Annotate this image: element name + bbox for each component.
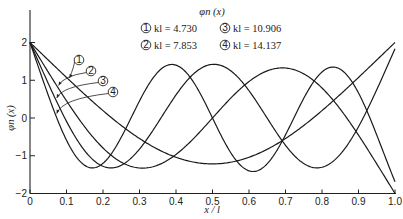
x-tick-label: 0 (27, 196, 33, 207)
svg-text:4: 4 (110, 86, 116, 97)
svg-text:2: 2 (143, 39, 149, 50)
x-tick-label: 0.9 (352, 196, 366, 207)
svg-text:kl = 14.137: kl = 14.137 (233, 40, 281, 51)
y-tick-label: −1 (16, 150, 28, 161)
x-tick-label: 0.2 (96, 196, 110, 207)
y-tick-label: 0 (21, 113, 27, 124)
svg-text:1: 1 (76, 54, 82, 65)
y-tick-label: 2 (21, 37, 27, 48)
x-axis-label: x / l (203, 204, 220, 215)
y-tick-label: 1 (21, 75, 27, 86)
legend: φn (x) 1 kl = 4.730 3 kl = 10.906 2 kl =… (141, 6, 281, 51)
y-axis-label: φn (x) (5, 105, 17, 131)
svg-text:3: 3 (222, 22, 228, 33)
x-tick-label: 0.7 (279, 196, 293, 207)
legend-item-2: 2 kl = 7.853 (141, 39, 197, 51)
legend-title: φn (x) (199, 6, 225, 18)
legend-item-4: 4 kl = 14.137 (220, 39, 281, 51)
svg-text:kl = 4.730: kl = 4.730 (154, 23, 197, 34)
mode-curve-3 (30, 43, 395, 168)
x-tick-label: 0.6 (242, 196, 256, 207)
y-tick-label: −2 (16, 188, 28, 199)
curve-callouts: 1234 (57, 54, 118, 113)
y-ticks: 210−1−2 (16, 37, 35, 199)
x-tick-label: 0.1 (60, 196, 74, 207)
svg-text:2: 2 (88, 65, 94, 76)
svg-text:kl = 10.906: kl = 10.906 (233, 23, 281, 34)
mode-curve-1 (30, 43, 395, 164)
x-tick-label: 0.3 (133, 196, 147, 207)
svg-text:kl = 7.853: kl = 7.853 (154, 40, 197, 51)
svg-text:3: 3 (100, 75, 106, 86)
mode-curve-4 (30, 43, 395, 182)
x-tick-label: 1.0 (388, 196, 402, 207)
mode-curves (30, 43, 395, 194)
svg-text:1: 1 (143, 22, 149, 33)
svg-text:4: 4 (222, 39, 228, 50)
legend-item-1: 1 kl = 4.730 (141, 22, 197, 34)
x-tick-label: 0.8 (315, 196, 329, 207)
x-tick-label: 0.4 (169, 196, 183, 207)
mode-shape-chart: 00.10.20.30.40.50.60.70.80.91.0 210−1−2 … (0, 0, 403, 219)
legend-item-3: 3 kl = 10.906 (220, 22, 281, 34)
